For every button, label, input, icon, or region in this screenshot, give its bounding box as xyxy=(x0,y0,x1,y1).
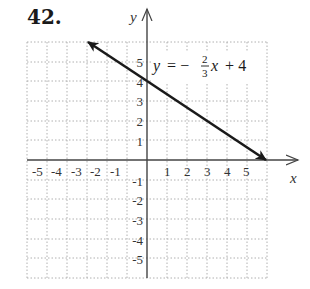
equation-label: y = − 2 3 x + 4 xyxy=(151,52,266,82)
svg-text:5: 5 xyxy=(137,55,144,70)
svg-text:-2: -2 xyxy=(132,193,143,208)
svg-text:-4: -4 xyxy=(51,164,62,179)
svg-text:1: 1 xyxy=(164,164,171,179)
svg-text:-1: -1 xyxy=(132,174,143,189)
svg-text:x + 4: x + 4 xyxy=(210,57,246,74)
svg-text:1: 1 xyxy=(137,134,144,149)
svg-text:4: 4 xyxy=(224,164,231,179)
y-axis-label: y xyxy=(128,9,137,25)
svg-text:-5: -5 xyxy=(32,164,43,179)
svg-text:-1: -1 xyxy=(110,164,121,179)
svg-text:y = −: y = − xyxy=(151,57,189,75)
svg-text:-4: -4 xyxy=(132,233,143,248)
svg-text:5: 5 xyxy=(243,164,250,179)
coordinate-graph: y x -5 -4 -3 -2 -1 1 2 3 4 5 5 4 3 2 1 -… xyxy=(0,0,310,289)
y-tick-labels: 5 4 3 2 1 -1 -2 -3 -4 -5 xyxy=(132,55,143,267)
svg-text:2: 2 xyxy=(202,53,208,65)
svg-text:3: 3 xyxy=(202,67,208,79)
svg-text:2: 2 xyxy=(184,164,191,179)
svg-text:-5: -5 xyxy=(132,252,143,267)
svg-text:3: 3 xyxy=(204,164,211,179)
svg-text:-3: -3 xyxy=(132,213,143,228)
svg-text:2: 2 xyxy=(137,114,144,129)
x-axis-label: x xyxy=(289,170,297,186)
svg-text:-3: -3 xyxy=(71,164,82,179)
svg-text:3: 3 xyxy=(137,94,144,109)
svg-text:-2: -2 xyxy=(90,164,101,179)
